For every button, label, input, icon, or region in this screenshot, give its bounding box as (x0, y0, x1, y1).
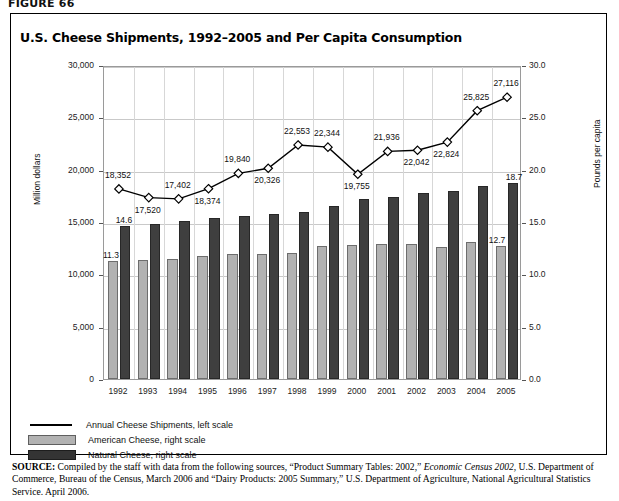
legend-swatch-american (28, 435, 76, 445)
figure-label: FIGURE 66 (8, 0, 75, 10)
legend-item-natural: Natural Cheese, right scale (28, 448, 233, 461)
line-series (104, 67, 522, 381)
right-axis-tick: 10.0 (529, 269, 546, 279)
right-axis-label: Pounds per capita (592, 119, 602, 188)
line-label-1993: 17,520 (124, 205, 172, 215)
right-axis-tick: 25.0 (529, 112, 546, 122)
line-label-2003: 22,824 (422, 149, 470, 159)
left-axis-tick: 20,000 (68, 165, 94, 175)
right-axis-tick: 5.0 (529, 322, 541, 332)
line-label-1995: 18,374 (184, 196, 232, 206)
line-marker-2002 (413, 146, 421, 154)
chart-legend: Annual Cheese Shipments, left scaleAmeri… (28, 418, 233, 463)
legend-item-line: Annual Cheese Shipments, left scale (28, 418, 233, 431)
bar-label-american-2005: 12.7 (475, 235, 519, 245)
left-axis-tick: 25,000 (68, 112, 94, 122)
line-marker-1995 (204, 184, 212, 192)
legend-label-line: Annual Cheese Shipments, left scale (86, 420, 233, 430)
chart-title: U.S. Cheese Shipments, 1992–2005 and Per… (20, 30, 462, 45)
right-axis-tickmark (522, 275, 526, 276)
right-axis-tickmark (522, 328, 526, 329)
legend-label-american: American Cheese, right scale (88, 435, 206, 445)
line-label-2005: 27,116 (482, 78, 530, 88)
right-axis-tick: 0.0 (529, 374, 541, 384)
line-marker-1993 (145, 193, 153, 201)
left-axis-tick: 0 (89, 374, 94, 384)
line-label-2000: 19,755 (333, 181, 381, 191)
source-prefix: SOURCE: (12, 461, 55, 472)
left-axis-tick: 5,000 (73, 322, 94, 332)
left-axis-tick: 30,000 (68, 60, 94, 70)
legend-item-american: American Cheese, right scale (28, 433, 233, 446)
left-axis-tickmark (99, 380, 103, 381)
bar-label-american-1992: 11.3 (89, 250, 133, 260)
right-axis-tickmark (522, 223, 526, 224)
left-axis-tick: 15,000 (68, 217, 94, 227)
left-axis-label: Million dollars (32, 154, 42, 206)
line-label-2004: 25,825 (452, 92, 500, 102)
line-marker-1994 (174, 195, 182, 203)
line-marker-2005 (503, 93, 511, 101)
source-note: SOURCE: Compiled by the staff with data … (12, 461, 609, 498)
right-axis-tickmark (522, 66, 526, 67)
line-label-1999: 22,344 (303, 128, 351, 138)
right-axis-tick: 30.0 (529, 60, 546, 70)
line-label-1994: 17,402 (154, 180, 202, 190)
legend-swatch-natural (28, 450, 76, 460)
right-axis-tickmark (522, 118, 526, 119)
line-marker-1996 (234, 169, 242, 177)
right-axis-tickmark (522, 380, 526, 381)
legend-swatch-line (28, 420, 74, 429)
line-label-1992: 18,352 (94, 170, 142, 180)
bar-label-natural-1992: 14.6 (102, 215, 146, 225)
legend-label-natural: Natural Cheese, right scale (88, 450, 197, 460)
line-marker-1992 (115, 185, 123, 193)
line-label-1996: 19,840 (213, 154, 261, 164)
x-axis-tick: 2005 (486, 386, 526, 396)
line-label-1997: 20,326 (243, 175, 291, 185)
source-italic-title: Economic Census 2002 (424, 461, 514, 472)
line-label-2001: 21,936 (363, 132, 411, 142)
source-text-1: Compiled by the staff with data from the… (55, 461, 424, 472)
plot-area (103, 66, 521, 380)
right-axis-tick: 15.0 (529, 217, 546, 227)
bar-label-natural-2005: 18.7 (492, 172, 536, 182)
left-axis-tick: 10,000 (68, 269, 94, 279)
